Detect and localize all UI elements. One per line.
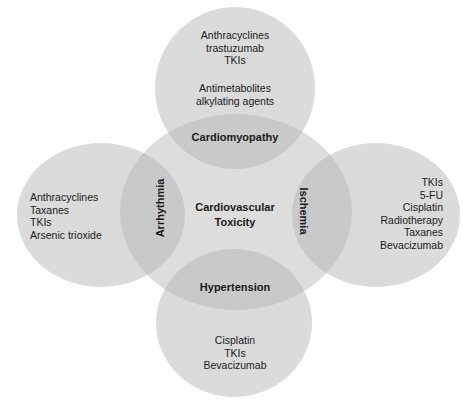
agent: TKIs xyxy=(30,216,130,229)
agent: TKIs xyxy=(175,347,295,360)
center-line-1: Cardiovascular xyxy=(175,200,295,215)
agent: Cisplatin xyxy=(175,334,295,347)
agent: Bevacizumab xyxy=(330,239,443,252)
center-line-2: Toxicity xyxy=(175,215,295,230)
cardiomyopathy-label: Cardiomyopathy xyxy=(175,131,295,144)
agent: trastuzumab xyxy=(175,42,295,55)
agent: Bevacizumab xyxy=(175,359,295,372)
agent: alkylating agents xyxy=(175,95,295,108)
arrhythmia-label: Arrhythmia xyxy=(154,179,166,238)
agent: Cisplatin xyxy=(330,201,443,214)
cardiomyopathy-agents-2: Antimetabolites alkylating agents xyxy=(175,82,295,107)
cardiomyopathy-agents: Anthracyclines trastuzumab TKIs xyxy=(175,29,295,67)
agent: Taxanes xyxy=(30,204,130,217)
agent: Arsenic trioxide xyxy=(30,229,130,242)
ischemia-agents: TKIs 5-FU Cisplatin Radiotherapy Taxanes… xyxy=(330,176,443,251)
ischemia-label: Ischemia xyxy=(298,187,310,234)
center-label: Cardiovascular Toxicity xyxy=(175,200,295,230)
agent: 5-FU xyxy=(330,189,443,202)
agent: Taxanes xyxy=(330,226,443,239)
agent: Anthracyclines xyxy=(175,29,295,42)
hypertension-agents: Cisplatin TKIs Bevacizumab xyxy=(175,334,295,372)
agent: Antimetabolites xyxy=(175,82,295,95)
agent: Anthracyclines xyxy=(30,191,130,204)
hypertension-label: Hypertension xyxy=(175,281,295,294)
agent: Radiotherapy xyxy=(330,214,443,227)
agent: TKIs xyxy=(175,54,295,67)
arrhythmia-agents: Anthracyclines Taxanes TKIs Arsenic trio… xyxy=(30,191,130,241)
agent: TKIs xyxy=(330,176,443,189)
